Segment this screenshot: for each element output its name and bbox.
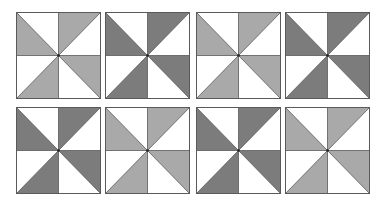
pinwheel-tile-2 bbox=[105, 12, 190, 99]
pinwheel-tile-3 bbox=[196, 12, 281, 99]
pinwheel-tile-1 bbox=[16, 12, 101, 99]
pinwheel-tile-5 bbox=[16, 107, 101, 194]
pinwheel-tile-7 bbox=[196, 107, 281, 194]
pinwheel-tile-4 bbox=[285, 12, 370, 99]
pinwheel-tile-6 bbox=[105, 107, 190, 194]
pinwheel-tile-8 bbox=[285, 107, 370, 194]
